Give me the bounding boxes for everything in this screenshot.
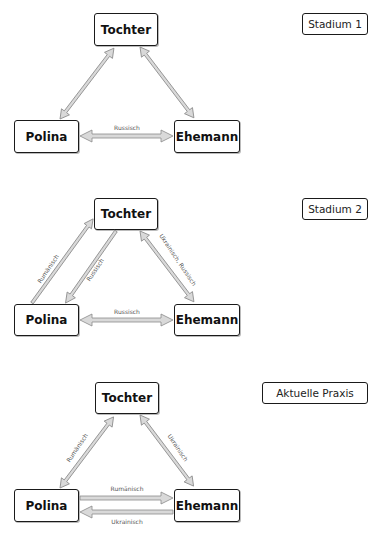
- edge-label: Russisch: [114, 308, 140, 315]
- edge-tochter-polina: [61, 228, 120, 306]
- stage-2: Tochter Polina Ehemann Stadium 2: [0, 185, 381, 365]
- edge-label: Ukrainisch: [111, 518, 143, 525]
- edge-label: Rumänisch: [65, 432, 89, 463]
- edge-tochter-ehemann: [136, 412, 198, 489]
- edge-polina-ehemann: [80, 130, 173, 142]
- edge-ehemann-polina: [80, 506, 173, 518]
- edges: Rumänisch Russisch Ukrainisch, Russisch …: [0, 185, 381, 365]
- edges: Russisch: [0, 0, 381, 180]
- edge-label: Ukrainisch: [166, 433, 189, 463]
- edge-polina-tochter: [56, 414, 118, 491]
- edge-polina-ehemann: [80, 314, 173, 326]
- edges: Rumänisch Ukrainisch Rumänisch Ukrainisc…: [0, 369, 381, 543]
- edge-label: Rumänisch: [111, 485, 144, 492]
- stage-1: Tochter Polina Ehemann Stadium 1 Russisc…: [0, 0, 381, 180]
- edge-polina-tochter: [56, 45, 118, 122]
- edge-polina-tochter: [28, 216, 96, 305]
- stage-3: Tochter Polina Ehemann Aktuelle Praxis: [0, 369, 381, 543]
- edge-tochter-ehemann: [136, 44, 198, 121]
- edge-polina-ehemann: [80, 492, 173, 504]
- edge-label: Russisch: [114, 124, 140, 131]
